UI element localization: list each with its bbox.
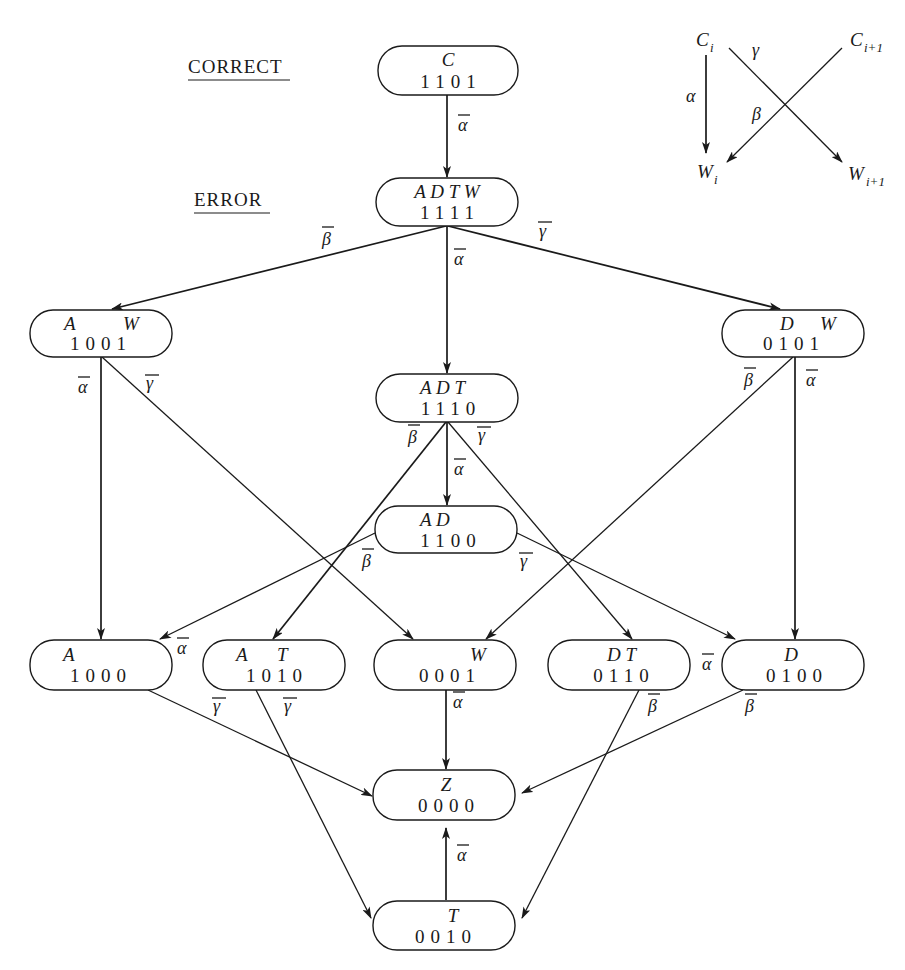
node-c: C 1101 [378,46,518,95]
svg-text:i: i [710,40,714,55]
svg-text:W: W [697,161,715,182]
svg-text:γ: γ [284,696,292,716]
label-adtw-dw-gamma-bar: γ [538,221,552,241]
svg-text:A: A [234,644,248,665]
legend-gamma-label: γ [752,40,760,60]
edge-dw-w [486,357,793,639]
state-transition-diagram: CORRECT ERROR C i C i+1 W i W i+1 α γ β [0,0,905,970]
svg-text:0101: 0101 [763,333,825,354]
label-a-z-gamma-bar: γ [212,696,226,716]
edge-a-z [148,690,372,796]
svg-text:A D T: A D T [418,377,466,398]
svg-text:α: α [454,249,464,269]
svg-text:W: W [848,163,866,184]
label-c-adtw-alpha-bar: α [458,115,470,135]
label-t-z-alpha-bar: α [457,845,469,865]
svg-text:β: β [744,696,754,716]
svg-text:1110: 1110 [421,398,482,419]
label-aw-a-alpha-bar: α [78,377,90,397]
label-dw-w-beta-bar: β [743,368,756,390]
svg-text:W: W [123,313,141,334]
svg-text:γ: γ [478,425,486,445]
label-adt-dt-gamma-bar: γ [477,425,491,445]
svg-text:i+1: i+1 [866,174,885,189]
edge-adtw-aw [112,226,446,309]
svg-text:0010: 0010 [415,926,477,947]
svg-text:1100: 1100 [420,530,481,551]
node-w: W 0001 [374,640,516,690]
svg-text:W: W [820,313,838,334]
edge-labels: α β α γ α γ β α [78,115,818,865]
svg-text:α: α [457,845,467,865]
node-adtw: A D T W 1111 [376,178,518,226]
svg-text:β: β [321,229,331,249]
svg-text:α: α [806,370,816,390]
label-ad-d-gamma-bar: γ [519,551,533,571]
edge-at-t [256,690,371,918]
edge-ad-d [517,533,735,639]
node-at: A T 1010 [203,640,345,690]
svg-text:T: T [277,644,289,665]
svg-text:Z: Z [441,774,452,795]
svg-text:A: A [61,644,75,665]
node-adt: A D T 1110 [376,374,518,422]
svg-text:A: A [62,313,76,334]
heading-correct: CORRECT [188,56,290,80]
svg-text:W: W [470,644,488,665]
svg-text:A D: A D [418,509,450,530]
node-aw: A W 1001 [30,310,172,357]
svg-text:γ: γ [146,373,154,393]
svg-text:0001: 0001 [419,665,481,686]
label-adt-ad-alpha-bar: α [454,459,466,479]
svg-text:1000: 1000 [70,665,132,686]
svg-text:0110: 0110 [593,665,654,686]
label-adt-at-beta-bar: β [407,425,420,447]
edge-adtw-dw [448,226,780,309]
legend-beta-label: β [751,104,761,124]
svg-text:α: α [177,638,187,658]
svg-text:β: β [407,427,417,447]
svg-text:γ: γ [539,221,547,241]
svg-text:α: α [78,377,88,397]
label-adtw-adt-alpha-bar: α [454,249,466,269]
svg-text:1010: 1010 [246,665,308,686]
label-dw-d-alpha-bar: α [806,370,818,390]
label-dt-t-beta-bar: β [647,694,660,716]
legend-alpha-label: α [686,86,696,106]
node-dw: D W 0101 [722,310,864,357]
svg-text:β: β [647,696,657,716]
legend-c-i-plus-1: C i+1 [850,29,883,55]
node-d: D 0100 [722,640,864,690]
legend: C i C i+1 W i W i+1 α γ β [686,29,885,189]
edge-dt-t [522,690,639,918]
svg-text:D T: D T [606,644,637,665]
svg-text:1111: 1111 [420,202,480,223]
node-a: A 1000 [30,640,172,690]
svg-text:0000: 0000 [418,795,480,816]
label-adtw-aw-beta-bar: β [321,227,334,249]
edge-aw-w [102,357,413,639]
svg-text:1101: 1101 [420,71,481,92]
label-at-t-gamma-bar: γ [283,696,297,716]
svg-text:0100: 0100 [766,665,828,686]
legend-w-i: W i [697,161,718,187]
svg-text:D: D [779,313,794,334]
svg-text:T: T [448,905,460,926]
svg-text:1001: 1001 [70,333,132,354]
svg-text:α: α [454,459,464,479]
label-ad-a-alpha-bar: α [177,638,189,658]
svg-text:α: α [458,115,468,135]
svg-text:γ: γ [520,551,528,571]
node-ad: A D 1100 [375,506,517,553]
svg-text:β: β [361,551,371,571]
edge-d-z [522,690,743,793]
heading-error: ERROR [194,189,270,213]
svg-text:C: C [696,29,709,50]
svg-text:ERROR: ERROR [194,189,262,210]
node-z: Z 0000 [373,770,515,820]
label-aw-w-gamma-bar: γ [145,373,159,393]
legend-w-i-plus-1: W i+1 [848,163,885,189]
svg-text:α: α [453,692,463,712]
svg-text:γ: γ [213,696,221,716]
svg-text:i: i [714,172,718,187]
